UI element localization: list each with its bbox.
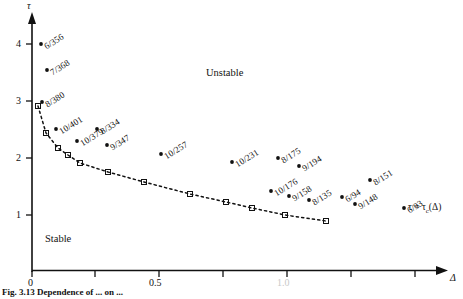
x-axis-ticks <box>32 271 415 277</box>
x-axis-title: Δ <box>450 272 456 283</box>
y-axis-ticks <box>26 44 32 215</box>
y-tick-label-1: 1 <box>16 209 21 220</box>
y-tick-label-3: 3 <box>16 95 21 106</box>
plot-canvas <box>0 0 463 299</box>
region-label-unstable: Unstable <box>206 67 243 78</box>
y-tick-label-2: 2 <box>16 152 21 163</box>
y-tick-label-4: 4 <box>16 38 21 49</box>
figure-stability-diagram: τ Δ 4 3 2 1 0 0.5 1.0 Unstable Stable τ … <box>0 0 463 299</box>
y-axis-title: τ <box>27 0 31 11</box>
region-label-stable: Stable <box>45 233 71 244</box>
curve-equation-tail: (Δ) <box>429 202 441 212</box>
figure-caption: Fig. 3.13 Dependence of ... on ... <box>2 287 461 299</box>
